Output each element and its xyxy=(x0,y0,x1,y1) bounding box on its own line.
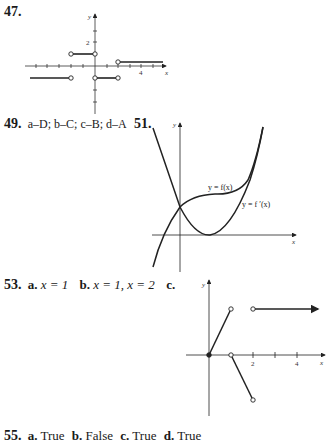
graph-47-x-label: x xyxy=(164,69,169,77)
graph-53c-x-label: x xyxy=(319,359,324,367)
graph-53c-x-tick-2: 2 xyxy=(251,360,255,368)
graph-53c-x-tick-4: 4 xyxy=(295,360,299,368)
graph-47-y-tick: 2 xyxy=(86,39,90,47)
graph-47-x-tick: 4 xyxy=(139,69,143,77)
graph-47-y-label: y xyxy=(87,13,92,21)
graph-53c-pieces xyxy=(209,309,318,398)
open-points xyxy=(229,307,255,402)
graph-51-f-label: y = f(x) xyxy=(208,183,233,192)
graph-53c xyxy=(186,280,325,416)
graph-51 xyxy=(152,123,296,272)
graph-51-x-label: x xyxy=(291,238,296,246)
graph-51-y-label: y xyxy=(172,121,177,129)
graph-47 xyxy=(25,14,166,114)
closed-point xyxy=(207,353,212,358)
graph-53c-y-label: y xyxy=(201,281,206,289)
f-curve xyxy=(153,127,263,267)
graph-51-fprime-label: y = f ′(x) xyxy=(242,200,271,209)
